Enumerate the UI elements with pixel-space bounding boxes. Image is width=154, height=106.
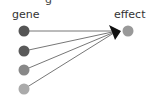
diagram-canvas — [0, 0, 154, 106]
edge-gene-2-to-effect — [24, 31, 117, 51]
effect-node — [123, 26, 134, 37]
gene-4-node — [19, 84, 30, 95]
gene-effect-diagram: g gene effect — [0, 0, 154, 106]
edge-gene-4-to-effect — [24, 31, 117, 89]
gene-3-node — [19, 65, 30, 76]
edge-gene-3-to-effect — [24, 31, 117, 70]
gene-1-node — [19, 26, 30, 37]
edges — [24, 31, 117, 89]
gene-2-node — [19, 46, 30, 57]
